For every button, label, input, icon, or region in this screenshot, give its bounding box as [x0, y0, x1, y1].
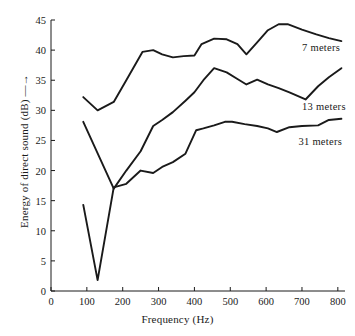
y-axis-ticks — [51, 20, 55, 291]
x-tick-label: 0 — [48, 296, 53, 307]
x-axis-ticks — [51, 287, 338, 291]
data-series-group — [83, 24, 341, 280]
x-tick-label: 200 — [115, 296, 131, 307]
x-tick-label: 100 — [79, 296, 95, 307]
series-label-13-meters: 13 meters — [302, 101, 346, 112]
line-chart: 051015202530354045 010020030040050060070… — [0, 0, 355, 336]
x-tick-label: 400 — [187, 296, 203, 307]
x-tick-label: 300 — [151, 296, 167, 307]
y-tick-label: 45 — [20, 15, 46, 26]
x-tick-label: 700 — [294, 296, 310, 307]
series-label-31-meters: 31 meters — [298, 136, 342, 147]
axis-lines — [51, 20, 345, 291]
y-tick-label: 0 — [20, 286, 46, 297]
x-tick-label: 800 — [330, 296, 346, 307]
x-tick-label: 600 — [258, 296, 274, 307]
x-axis-title: Frequency (Hz) — [0, 313, 355, 325]
x-tick-label: 500 — [222, 296, 238, 307]
series-label-7-meters: 7 meters — [302, 42, 340, 53]
y-axis-title: Energy of direct sound (dB) —→ — [18, 31, 30, 271]
